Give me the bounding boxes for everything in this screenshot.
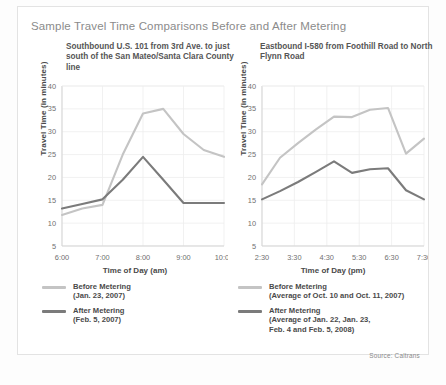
y-tick-label: 40 [48,82,56,91]
y-tick-label: 25 [48,150,56,159]
y-tick-label: 5 [52,242,56,251]
figure-title: Sample Travel Time Comparisons Before an… [31,20,346,32]
x-tick-label: 8:00 [136,253,150,262]
legend-item: Before Metering (Jan. 23, 2007) [42,282,232,301]
y-tick-label: 40 [248,82,256,91]
x-tick-label: 10:00 [215,253,228,262]
legend-label: After Metering (Feb. 5, 2007) [73,306,124,325]
y-tick-label: 35 [48,104,56,113]
chart-panel-right: Eastbound I-580 from Foothill Road to No… [228,42,428,342]
x-axis-title-right: Time of Day (pm) [238,266,428,275]
y-tick-label: 15 [248,196,256,205]
legend-right: Before Metering (Average of Oct. 10 and … [238,282,438,339]
plot-area-left: 4035302520151056:007:008:009:0010:00 [28,80,228,258]
x-tick-label: 6:30 [384,253,398,262]
y-tick-label: 20 [248,173,256,182]
plot-area-right: 4035302520151052:303:304:305:306:307:30 [228,80,428,258]
legend-label: Before Metering (Jan. 23, 2007) [73,282,131,301]
legend-item: Before Metering (Average of Oct. 10 and … [238,282,438,301]
y-tick-label: 15 [48,196,56,205]
y-tick-label: 35 [248,104,256,113]
x-tick-label: 3:30 [287,253,301,262]
source-attribution: Source: Caltrans [369,352,420,359]
legend-swatch-before [42,286,66,289]
y-tick-label: 30 [248,127,256,136]
legend-label: After Metering (Average of Jan. 22, Jan.… [269,306,370,334]
legend-item: After Metering (Feb. 5, 2007) [42,306,232,325]
series-line-after [262,161,424,199]
figure-canvas: Sample Travel Time Comparisons Before an… [0,0,446,385]
x-axis-title-left: Time of Day (am) [42,266,228,275]
chart-panel-left: Southbound U.S. 101 from 3rd Ave. to jus… [28,42,228,342]
x-tick-label: 6:00 [55,253,69,262]
x-tick-label: 7:00 [95,253,109,262]
line-chart-right: 4035302520151052:303:304:305:306:307:30 [228,80,428,280]
x-tick-label: 7:30 [417,253,428,262]
x-tick-label: 9:00 [176,253,190,262]
y-tick-label: 10 [48,219,56,228]
line-chart-left: 4035302520151056:007:008:009:0010:00 [28,80,228,280]
legend-item: After Metering (Average of Jan. 22, Jan.… [238,306,438,334]
legend-swatch-after [42,310,66,313]
chart-subtitle-right: Eastbound I-580 from Foothill Road to No… [260,42,435,63]
legend-swatch-after [238,310,262,313]
series-line-before [262,108,424,184]
y-tick-label: 25 [248,150,256,159]
y-tick-label: 5 [252,242,256,251]
x-tick-label: 4:30 [320,253,334,262]
x-tick-label: 5:30 [352,253,366,262]
x-tick-label: 2:30 [255,253,269,262]
y-tick-label: 30 [48,127,56,136]
y-tick-label: 20 [48,173,56,182]
legend-label: Before Metering (Average of Oct. 10 and … [269,282,404,301]
y-tick-label: 10 [248,219,256,228]
chart-subtitle-left: Southbound U.S. 101 from 3rd Ave. to jus… [66,42,236,73]
legend-swatch-before [238,286,262,289]
legend-left: Before Metering (Jan. 23, 2007)After Met… [42,282,232,330]
